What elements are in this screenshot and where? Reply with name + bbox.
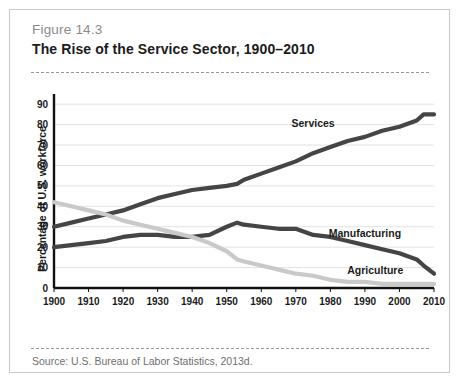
y-tick-label: 80 — [37, 119, 49, 130]
x-tick-label: 1950 — [216, 296, 239, 307]
y-tick-label: 90 — [37, 99, 49, 110]
y-tick-label: 40 — [37, 201, 49, 212]
x-tick-label: 1940 — [181, 296, 204, 307]
x-tick-label: 1960 — [250, 296, 273, 307]
y-tick-label: 30 — [37, 221, 49, 232]
series-label-manufacturing: Manufacturing — [329, 227, 401, 239]
y-tick-label: 20 — [37, 242, 49, 253]
series-label-agriculture: Agriculture — [347, 264, 403, 276]
x-tick-label: 2010 — [423, 296, 446, 307]
y-tick-label: 70 — [37, 140, 49, 151]
line-chart: 0102030405060708090190019101920193019401… — [16, 82, 446, 322]
divider-top — [31, 72, 429, 73]
x-tick-label: 1970 — [285, 296, 308, 307]
y-tick-label: 10 — [37, 262, 49, 273]
x-tick-label: 2000 — [388, 296, 411, 307]
x-tick-label: 1920 — [112, 296, 135, 307]
x-tick-label: 1910 — [77, 296, 100, 307]
series-label-services: Services — [291, 117, 334, 129]
y-tick-label: 60 — [37, 160, 49, 171]
x-tick-label: 1900 — [43, 296, 66, 307]
series-line-services — [54, 114, 434, 226]
figure-title: The Rise of the Service Sector, 1900–201… — [32, 41, 315, 57]
divider-bottom — [31, 348, 429, 349]
y-tick-label: 0 — [42, 283, 48, 294]
x-tick-label: 1990 — [354, 296, 377, 307]
figure-card: Figure 14.3 The Rise of the Service Sect… — [0, 0, 461, 383]
y-tick-label: 50 — [37, 180, 49, 191]
x-tick-label: 1980 — [319, 296, 342, 307]
figure-number: Figure 14.3 — [32, 22, 103, 37]
x-tick-label: 1930 — [147, 296, 170, 307]
source-note: Source: U.S. Bureau of Labor Statistics,… — [32, 355, 253, 367]
